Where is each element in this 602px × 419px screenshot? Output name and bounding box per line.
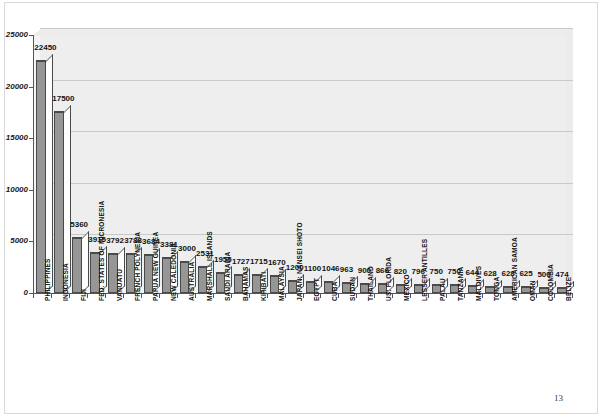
x-axis-category-label: FRENCH POLYNESIA: [134, 232, 141, 301]
x-axis-tick-mark: [338, 293, 339, 298]
bar-value-label: 963: [340, 265, 353, 274]
x-axis-tick-mark: [159, 293, 160, 298]
x-axis-tick-mark: [177, 293, 178, 298]
x-axis-tick-mark: [410, 293, 411, 298]
x-axis-tick-mark: [285, 293, 286, 298]
x-axis-category-label: SUDAN: [349, 277, 356, 301]
x-axis-tick-mark: [374, 293, 375, 298]
bar-value-label: 5360: [70, 220, 88, 229]
document-page: 0500010000150002000025000 22450175005360…: [0, 0, 602, 419]
bar-value-label: 22450: [34, 43, 56, 52]
x-axis-category-label: BAHAMAS: [242, 266, 249, 301]
x-axis-category-label: PAPUA NEW GUINEA: [152, 232, 159, 301]
x-axis-category-label: MEXICO: [403, 274, 410, 301]
x-axis-category-label: FIJI: [80, 289, 87, 301]
x-axis-category-label: PHILIPPINES: [44, 258, 51, 301]
x-axis-category-label: TANZANIA: [457, 267, 464, 301]
x-axis-tick-mark: [554, 293, 555, 298]
bar-value-label: 1727: [232, 257, 250, 266]
bar-value-label: 1100: [304, 264, 321, 273]
x-axis-tick-mark: [428, 293, 429, 298]
x-axis-category-label: KIRIBATI: [260, 272, 267, 301]
page-number: 13: [554, 393, 563, 403]
x-axis-tick-mark: [267, 293, 268, 298]
x-axis-category-label: THAILAND: [367, 266, 374, 301]
bar[interactable]: [72, 238, 88, 293]
x-axis-tick-mark: [464, 293, 465, 298]
x-axis-tick-mark: [303, 293, 304, 298]
bar-value-label: 3792: [106, 236, 124, 245]
x-axis-category-label: AUSTRALIA: [188, 262, 195, 301]
x-axis-category-label: TONGA: [493, 277, 500, 301]
x-axis-tick-mark: [572, 293, 573, 298]
x-axis-category-label: COLOMBIA: [547, 264, 554, 301]
x-axis-tick-mark: [482, 293, 483, 298]
x-axis-category-label: US: FLORIDA: [385, 257, 392, 301]
x-axis-tick-mark: [51, 293, 52, 298]
bar-chart: 0500010000150002000025000 22450175005360…: [0, 0, 602, 419]
x-axis-tick-mark: [195, 293, 196, 298]
x-axis-tick-mark: [356, 293, 357, 298]
x-axis-category-label: INDONESIA: [62, 263, 69, 301]
x-axis-tick-mark: [33, 293, 34, 298]
bar-series: 2245017500536039153792378836843381300025…: [0, 0, 602, 419]
x-axis-tick-mark: [446, 293, 447, 298]
x-axis-category-label: VANUATU: [116, 269, 123, 301]
x-axis-category-label: LESSER ANTILLES: [421, 239, 428, 301]
x-axis-tick-mark: [500, 293, 501, 298]
x-axis-tick-mark: [141, 293, 142, 298]
x-axis-tick-mark: [231, 293, 232, 298]
x-axis-category-label: AMERICAN SAMOA: [511, 237, 518, 301]
x-axis-category-label: CUBA: [331, 281, 338, 301]
x-axis-category-label: MALAYSIA: [278, 266, 285, 301]
x-axis-tick-mark: [320, 293, 321, 298]
x-axis-category-label: PALAU: [439, 278, 446, 301]
bar-value-label: 625: [519, 269, 532, 278]
x-axis-tick-mark: [392, 293, 393, 298]
x-axis-category-label: NEW CALEDONIA: [170, 243, 177, 301]
x-axis-tick-mark: [69, 293, 70, 298]
bar-value-label: 3000: [178, 244, 196, 253]
bar-value-label: 17500: [52, 94, 74, 103]
x-axis-tick-mark: [105, 293, 106, 298]
x-axis-tick-mark: [536, 293, 537, 298]
bar-value-label: 1046: [322, 264, 340, 273]
x-axis-tick-mark: [123, 293, 124, 298]
x-axis-category-label: FED. STATES OF MICRONESIA: [98, 201, 105, 301]
bar-front-face: [72, 238, 81, 293]
x-axis-category-label: MALDIVES: [475, 266, 482, 301]
x-axis-tick-mark: [518, 293, 519, 298]
x-axis-tick-mark: [87, 293, 88, 298]
x-axis-tick-mark: [249, 293, 250, 298]
x-axis-category-label: OMAN: [529, 280, 536, 301]
x-axis-category-label: SAUDI ARABIA: [224, 252, 231, 301]
x-axis-category-label: BELIZE: [565, 277, 572, 301]
x-axis-category-label: EGYPT: [313, 278, 320, 301]
x-axis-tick-mark: [213, 293, 214, 298]
x-axis-category-label: MARSHALL ISLANDS: [206, 231, 213, 301]
bar-value-label: 750: [430, 267, 443, 276]
bar-value-label: 1715: [250, 257, 268, 266]
x-axis-category-label: JAPAN: NANSEI SHOTO: [296, 222, 303, 301]
